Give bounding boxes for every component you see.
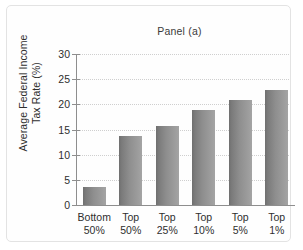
y-tick-mark	[72, 155, 80, 156]
y-tick-mark	[72, 130, 80, 131]
gridline	[80, 180, 289, 181]
y-axis-label-line-2: Tax Rate (%)	[30, 18, 43, 168]
x-tick-label: Top1%	[255, 211, 300, 237]
gridline	[80, 54, 289, 55]
y-tick-mark	[72, 104, 80, 105]
plot-area: 302520151050 Bottom50%Top50%Top25%Top10%…	[76, 54, 289, 205]
y-tick-mark	[72, 79, 80, 80]
y-tick-mark	[72, 205, 80, 206]
gridline	[80, 104, 289, 105]
y-tick-mark	[72, 180, 80, 181]
x-tick-label-line: 1%	[255, 224, 300, 237]
y-tick-label: 0	[64, 199, 70, 211]
bar	[156, 126, 179, 205]
y-axis-label: Average Federal Income Tax Rate (%)	[17, 18, 51, 168]
bar	[229, 100, 252, 205]
y-tick-label: 20	[58, 98, 70, 110]
y-tick-label: 30	[58, 48, 70, 60]
y-axis-label-line-1: Average Federal Income	[17, 18, 30, 168]
y-tick-label: 5	[64, 174, 70, 186]
bar	[192, 110, 215, 205]
gridline	[80, 155, 289, 156]
bar	[119, 136, 142, 205]
gridline	[80, 130, 289, 131]
bar	[265, 90, 288, 205]
chart-title: Panel (a)	[67, 25, 292, 37]
y-tick-label: 15	[58, 124, 70, 136]
y-tick-label: 25	[58, 73, 70, 85]
x-tick-label-line: Top	[255, 211, 300, 224]
figure-frame: Panel (a) Average Federal Income Tax Rat…	[6, 5, 291, 242]
y-tick-label: 10	[58, 149, 70, 161]
gridline	[80, 79, 289, 80]
bar	[83, 187, 106, 205]
x-axis-spine	[76, 205, 295, 206]
y-tick-mark	[72, 54, 80, 55]
